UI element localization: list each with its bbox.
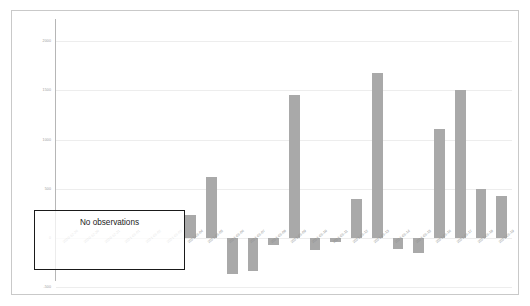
chart-figure: 2000150010005000-500 2020-12-262020-12-3…	[0, 0, 530, 306]
no-observations-label: No observations	[35, 218, 184, 227]
chart-frame: 2000150010005000-500 2020-12-262020-12-3…	[11, 10, 519, 295]
bar[interactable]	[351, 199, 362, 238]
bar[interactable]	[372, 73, 383, 239]
bar[interactable]	[455, 90, 466, 238]
y-axis-tick-label: 2000	[43, 39, 51, 43]
y-axis-tick-label: 500	[45, 187, 51, 191]
y-axis-tick-label: 1500	[43, 88, 51, 92]
no-observations-annotation: No observations	[34, 210, 185, 270]
gridline: -500	[56, 287, 512, 288]
bar[interactable]	[434, 129, 445, 238]
gridline: 2000	[56, 41, 512, 42]
gridline: 1500	[56, 90, 512, 91]
y-axis-tick-label: 1000	[43, 138, 51, 142]
bar[interactable]	[206, 177, 217, 238]
bar[interactable]	[289, 95, 300, 238]
bar[interactable]	[476, 189, 487, 238]
y-axis-tick-label: -500	[43, 285, 51, 289]
bar[interactable]	[496, 196, 507, 238]
bar[interactable]	[227, 238, 238, 274]
